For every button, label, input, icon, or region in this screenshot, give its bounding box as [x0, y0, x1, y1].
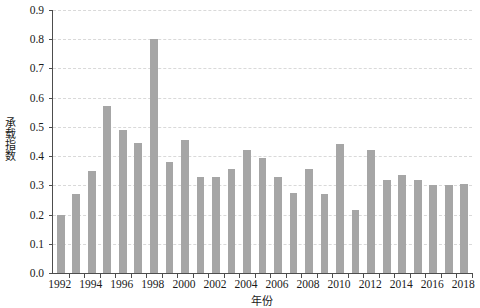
bar	[166, 162, 174, 273]
bar	[383, 180, 391, 274]
y-axis-title: 承载指数	[0, 0, 18, 278]
bar	[243, 150, 251, 273]
bar	[197, 177, 205, 273]
bar	[367, 150, 375, 273]
y-axis-tick-label: 0.9	[30, 4, 44, 16]
y-axis-tick-label: 0.6	[30, 92, 44, 104]
bar	[414, 180, 422, 274]
bar	[290, 193, 298, 273]
y-axis-tick-label: 0.8	[30, 33, 44, 45]
y-axis-title-label: 承载指数	[4, 117, 15, 161]
bar	[398, 175, 406, 273]
bar	[336, 144, 344, 273]
bar	[72, 194, 80, 273]
bar	[150, 39, 158, 273]
bar	[259, 158, 267, 273]
bar	[445, 185, 453, 273]
bar	[103, 106, 111, 273]
x-axis-tick-label: 2010	[328, 278, 351, 290]
bar	[429, 185, 437, 273]
bar	[119, 130, 127, 273]
x-axis-tick-label: 1992	[48, 278, 71, 290]
y-axis-tick-mark	[49, 273, 53, 274]
y-axis-tick-label: 0.4	[30, 150, 44, 162]
bar	[352, 210, 360, 273]
x-axis-tick-label: 2004	[234, 278, 257, 290]
x-axis-tick-label: 1998	[141, 278, 164, 290]
bar-series	[53, 10, 472, 273]
bar	[274, 177, 282, 273]
y-axis-tick-label: 0.1	[30, 238, 44, 250]
x-axis-title: 年份	[52, 292, 471, 308]
x-axis-tick-label: 2000	[172, 278, 195, 290]
x-axis-tick-label: 2018	[452, 278, 475, 290]
x-axis-tick-label: 1994	[79, 278, 102, 290]
x-axis-tick-label: 2008	[297, 278, 320, 290]
x-axis-tick-label: 2016	[421, 278, 444, 290]
bar	[134, 143, 142, 273]
bar	[321, 194, 329, 273]
y-axis-tick-label: 0.2	[30, 209, 44, 221]
x-axis-tick-label: 2012	[359, 278, 382, 290]
y-axis-tick-label: 0.7	[30, 62, 44, 74]
plot-area	[52, 10, 472, 274]
y-axis-tick-label: 0.3	[30, 179, 44, 191]
bar	[212, 177, 220, 273]
bar	[57, 215, 65, 273]
x-axis-tick-label: 2002	[203, 278, 226, 290]
x-axis-tick-label: 1996	[110, 278, 133, 290]
bar	[88, 171, 96, 273]
y-axis-tick-label: 0.0	[30, 267, 44, 279]
y-axis-tick-labels: 0.00.10.20.30.40.50.60.70.80.9	[18, 0, 48, 278]
bar	[460, 184, 468, 273]
bar	[305, 169, 313, 273]
x-axis-tick-label: 2006	[266, 278, 289, 290]
bar	[181, 140, 189, 273]
bar	[228, 169, 236, 273]
x-axis-tick-label: 2014	[390, 278, 413, 290]
y-axis-tick-label: 0.5	[30, 121, 44, 133]
bar-chart: 承载指数 0.00.10.20.30.40.50.60.70.80.9 1992…	[0, 0, 480, 308]
